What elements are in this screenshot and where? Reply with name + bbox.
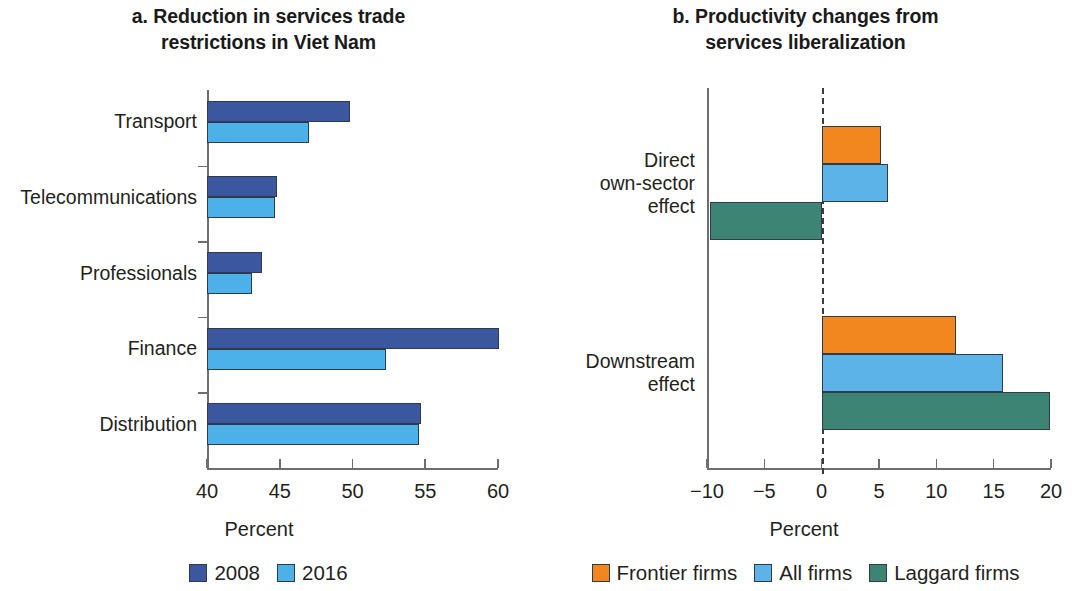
bar: [822, 126, 882, 164]
x-axis-tick-label: 45: [269, 480, 291, 503]
category-label: Distribution: [2, 413, 197, 436]
legend-label-laggard-firms: Laggard firms: [894, 561, 1019, 585]
bar: [207, 328, 499, 349]
x-axis-tick-label: 15: [983, 480, 1005, 503]
legend-item-frontier-firms: Frontier firms: [592, 561, 738, 585]
legend-item-laggard-firms: Laggard firms: [869, 561, 1019, 585]
legend-label-frontier-firms: Frontier firms: [617, 561, 738, 585]
category-label: Direct own-sector effect: [535, 149, 695, 218]
x-axis-tick: [764, 459, 766, 468]
bar: [207, 197, 275, 218]
legend-item-2016: 2016: [277, 561, 348, 585]
y-axis-line: [707, 88, 709, 468]
x-axis-tick-label: 0: [816, 480, 827, 503]
legend-swatch-all-firms: [754, 564, 772, 582]
x-axis-tick: [1050, 459, 1052, 468]
bar: [822, 354, 1003, 392]
x-axis-tick-label: 20: [1040, 480, 1062, 503]
x-axis-tick-label: 10: [925, 480, 947, 503]
panel-a-plot-area: 4045505560TransportTelecommunicationsPro…: [0, 0, 537, 545]
panel-a: a. Reduction in services trade restricti…: [0, 0, 537, 591]
category-label: Finance: [2, 337, 197, 360]
x-axis-tick-label: −5: [753, 480, 776, 503]
bar: [207, 403, 421, 424]
bar: [207, 252, 262, 273]
legend-item-2008: 2008: [189, 561, 260, 585]
x-axis-tick: [936, 459, 938, 468]
category-label: Downstream effect: [535, 350, 695, 396]
x-axis-tick-label: 55: [414, 480, 436, 503]
x-axis-caption: Percent: [537, 518, 1071, 541]
x-axis-tick-label: −10: [690, 480, 724, 503]
y-axis-group-tick: [198, 392, 207, 394]
legend-label-all-firms: All firms: [779, 561, 852, 585]
legend-swatch-laggard-firms: [869, 564, 887, 582]
two-panel-bar-chart-figure: a. Reduction in services trade restricti…: [0, 0, 1074, 591]
x-axis-tick-label: 5: [873, 480, 884, 503]
x-axis-line: [207, 468, 498, 470]
panel-b-plot-area: −10−505101520Direct own-sector effectDow…: [537, 0, 1074, 545]
x-axis-tick: [279, 459, 281, 468]
bar: [207, 424, 419, 445]
legend-label-2016: 2016: [302, 561, 348, 585]
x-axis-tick-label: 60: [487, 480, 509, 503]
legend-item-all-firms: All firms: [754, 561, 852, 585]
category-label: Telecommunications: [2, 186, 197, 209]
x-axis-tick: [206, 459, 208, 468]
bar: [207, 349, 386, 370]
bar: [207, 122, 309, 143]
bar: [207, 101, 350, 122]
panel-a-legend: 2008 2016: [0, 561, 537, 585]
bar: [710, 202, 821, 240]
x-axis-tick: [993, 459, 995, 468]
bar: [207, 273, 252, 294]
x-axis-tick: [878, 459, 880, 468]
panel-b: b. Productivity changes from services li…: [537, 0, 1074, 591]
x-axis-line: [707, 468, 1051, 470]
y-axis-group-tick: [198, 241, 207, 243]
legend-swatch-2008: [189, 564, 207, 582]
x-axis-tick-label: 40: [196, 480, 218, 503]
legend-label-2008: 2008: [214, 561, 260, 585]
x-axis-tick: [352, 459, 354, 468]
x-axis-tick-label: 50: [341, 480, 363, 503]
panel-b-legend: Frontier firms All firms Laggard firms: [537, 561, 1074, 585]
x-axis-caption: Percent: [0, 518, 518, 541]
bar: [822, 392, 1050, 430]
x-axis-tick: [424, 459, 426, 468]
category-label: Professionals: [2, 262, 197, 285]
y-axis-group-tick: [198, 166, 207, 168]
x-axis-tick: [706, 459, 708, 468]
category-label: Transport: [2, 110, 197, 133]
bar: [822, 164, 889, 202]
legend-swatch-frontier-firms: [592, 564, 610, 582]
y-axis-group-tick: [198, 317, 207, 319]
bar: [207, 176, 277, 197]
legend-swatch-2016: [277, 564, 295, 582]
bar: [822, 316, 956, 354]
x-axis-tick: [497, 459, 499, 468]
